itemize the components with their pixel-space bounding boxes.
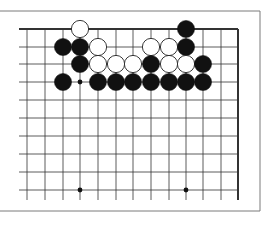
- black-stone: [54, 38, 71, 55]
- white-stone: [124, 55, 141, 72]
- white-stone: [89, 55, 106, 72]
- black-stone: [177, 73, 194, 90]
- black-stone: [71, 38, 88, 55]
- black-stone: [107, 73, 124, 90]
- black-stone: [54, 73, 71, 90]
- black-stone: [142, 73, 159, 90]
- star-point: [78, 80, 83, 85]
- black-stone: [89, 73, 106, 90]
- black-stone: [142, 55, 159, 72]
- white-stone: [107, 55, 124, 72]
- black-stone: [194, 55, 211, 72]
- go-diagram: [0, 0, 262, 226]
- white-stone: [89, 38, 106, 55]
- black-stone: [177, 20, 194, 37]
- black-stone: [160, 73, 177, 90]
- black-stone: [194, 73, 211, 90]
- star-point: [78, 188, 83, 193]
- black-stone: [124, 73, 141, 90]
- black-stone: [71, 55, 88, 72]
- white-stone: [177, 55, 194, 72]
- star-point: [184, 188, 189, 193]
- black-stone: [177, 38, 194, 55]
- white-stone: [160, 38, 177, 55]
- white-stone: [71, 20, 88, 37]
- white-stone: [160, 55, 177, 72]
- board-grid: [19, 29, 238, 200]
- white-stone: [142, 38, 159, 55]
